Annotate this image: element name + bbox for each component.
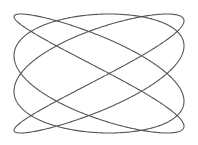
lissajous-figure xyxy=(0,0,198,145)
lissajous-curve xyxy=(14,14,184,133)
